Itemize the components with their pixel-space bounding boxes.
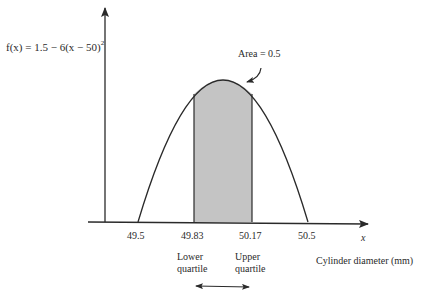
upper-quartile-line2: quartile	[235, 263, 266, 275]
x-axis-variable: x	[361, 232, 365, 244]
tick-label-49-5: 49.5	[127, 230, 145, 242]
lower-quartile-line1: Lower	[177, 251, 208, 263]
iqr-arrow	[196, 286, 249, 287]
tick-label-49-83: 49.83	[181, 230, 204, 242]
area-annotation: Area = 0.5	[238, 48, 281, 60]
area-annotation-arrow	[247, 68, 261, 82]
x-axis	[88, 222, 368, 224]
lower-quartile-label: Lower quartile	[177, 251, 208, 275]
lower-quartile-line2: quartile	[177, 263, 208, 275]
upper-quartile-line1: Upper	[235, 251, 266, 263]
tick-label-50-5: 50.5	[298, 230, 316, 242]
upper-quartile-label: Upper quartile	[235, 251, 266, 275]
function-label-text: f(x) = 1.5 − 6(x − 50)	[6, 41, 101, 53]
tick-label-50-17: 50.17	[239, 230, 262, 242]
function-exponent: 2	[101, 39, 105, 47]
shaded-area	[194, 80, 252, 222]
x-axis-title: Cylinder diameter (mm)	[316, 255, 413, 267]
function-label: f(x) = 1.5 − 6(x − 50)2	[6, 37, 104, 53]
